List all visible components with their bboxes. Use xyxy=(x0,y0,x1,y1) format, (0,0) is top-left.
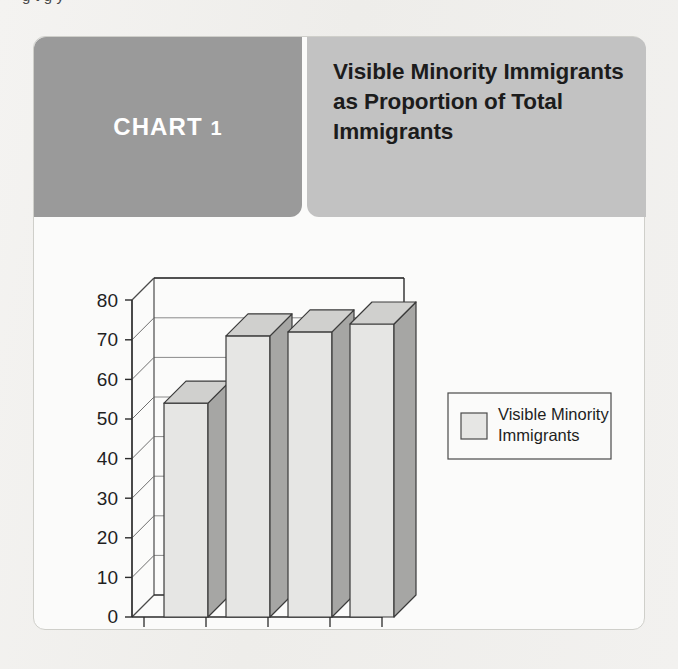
x-axis-category-labels: 1981 1991 2001 2006 xyxy=(159,628,389,631)
y-axis xyxy=(125,300,132,617)
x-tick-label: 1991 xyxy=(221,628,263,631)
x-axis-ticks xyxy=(144,617,382,627)
x-tick-label: 1981 xyxy=(159,628,201,631)
bar-1981 xyxy=(164,381,230,617)
legend-label-line1: Visible Minority xyxy=(498,405,609,423)
bar-2006 xyxy=(350,302,416,617)
y-tick-label: 70 xyxy=(97,329,118,350)
bar-2001 xyxy=(288,310,354,617)
y-tick-label: 40 xyxy=(97,448,118,469)
plot-area: 0 10 20 30 40 50 60 70 80 xyxy=(34,217,646,631)
bar-1991 xyxy=(226,314,292,617)
x-tick-label: 2001 xyxy=(283,628,325,631)
chart-tag-word: CHART xyxy=(113,113,203,140)
y-tick-label: 30 xyxy=(97,488,118,509)
y-axis-tick-labels: 0 10 20 30 40 50 60 70 80 xyxy=(97,290,118,627)
x-tick-label: 2006 xyxy=(347,628,389,631)
legend-label-line2: Immigrants xyxy=(498,426,580,444)
bar-chart-svg: 0 10 20 30 40 50 60 70 80 xyxy=(34,217,646,631)
y-tick-label: 50 xyxy=(97,408,118,429)
clipped-text-above-card: g t g y xyxy=(0,0,678,12)
legend-swatch xyxy=(461,413,487,439)
y-tick-label: 10 xyxy=(97,567,118,588)
chart-legend: Visible Minority Immigrants xyxy=(448,393,611,459)
y-tick-label: 20 xyxy=(97,527,118,548)
chart-title-block: Visible Minority Immigrants as Proportio… xyxy=(307,37,646,217)
page-title: Visible Minority Immigrants as Proportio… xyxy=(333,57,626,147)
chart-tag-number: 1 xyxy=(211,117,223,139)
chart-number-tag: CHART 1 xyxy=(34,37,302,217)
y-tick-label: 80 xyxy=(97,290,118,311)
chart-tag-text: CHART 1 xyxy=(113,113,223,141)
y-tick-label: 0 xyxy=(107,606,118,627)
chart-card: CHART 1 Visible Minority Immigrants as P… xyxy=(33,36,645,630)
chart-card-header: CHART 1 Visible Minority Immigrants as P… xyxy=(34,37,646,217)
y-tick-label: 60 xyxy=(97,369,118,390)
